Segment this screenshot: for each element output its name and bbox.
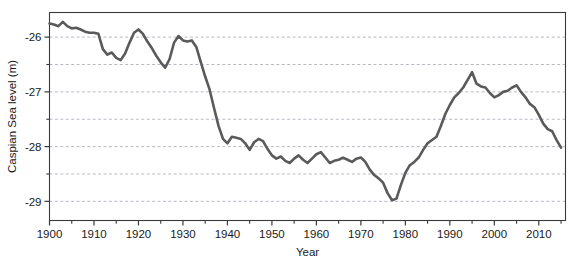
y-axis-tick-label: -26 <box>25 31 42 43</box>
x-axis-tick-label: 1910 <box>81 228 107 240</box>
x-axis-tick-label: 1900 <box>37 228 63 240</box>
x-axis-tick-label: 1920 <box>126 228 152 240</box>
y-axis-tick-label: -28 <box>25 141 42 153</box>
x-axis-tick-label: 2000 <box>482 228 508 240</box>
plot-frame <box>50 13 566 221</box>
y-axis-tick-label: -29 <box>25 196 42 208</box>
chart-figure: -26-27-28-291900191019201930194019501960… <box>0 0 577 273</box>
x-axis-tick-label: 1960 <box>304 228 330 240</box>
x-axis-tick-label: 1930 <box>170 228 196 240</box>
x-axis-tick-label: 1940 <box>215 228 241 240</box>
x-axis-title: Year <box>296 246 319 258</box>
x-axis-tick-label: 1990 <box>437 228 463 240</box>
x-axis-tick-label: 2010 <box>526 228 552 240</box>
x-axis-tick-label: 1970 <box>348 228 374 240</box>
caspian-sea-level-line-chart: -26-27-28-291900191019201930194019501960… <box>0 0 577 273</box>
x-axis-tick-label: 1980 <box>393 228 419 240</box>
y-axis-title: Caspian Sea level (m) <box>6 60 18 173</box>
y-axis-tick-label: -27 <box>25 86 42 98</box>
x-axis-tick-label: 1950 <box>259 228 285 240</box>
